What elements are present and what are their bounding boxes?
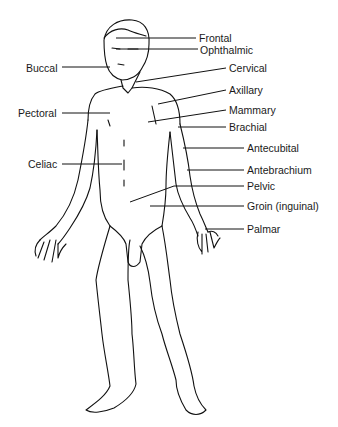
label-antecubital: Antecubital xyxy=(247,142,299,154)
label-pectoral: Pectoral xyxy=(18,107,57,119)
label-pelvic: Pelvic xyxy=(247,180,275,192)
label-ophthalmic: Ophthalmic xyxy=(200,44,253,56)
label-axillary: Axillary xyxy=(229,84,263,96)
label-antebrachium: Antebrachium xyxy=(247,164,312,176)
label-brachial: Brachial xyxy=(229,121,267,133)
label-groin: Groin (inguinal) xyxy=(247,200,319,212)
label-palmar: Palmar xyxy=(247,223,280,235)
anatomy-diagram: Frontal Ophthalmic Buccal Cervical Axill… xyxy=(0,0,338,427)
label-frontal: Frontal xyxy=(199,32,232,44)
label-cervical: Cervical xyxy=(229,62,267,74)
label-buccal: Buccal xyxy=(26,62,58,74)
label-celiac: Celiac xyxy=(28,158,57,170)
label-mammary: Mammary xyxy=(229,104,276,116)
